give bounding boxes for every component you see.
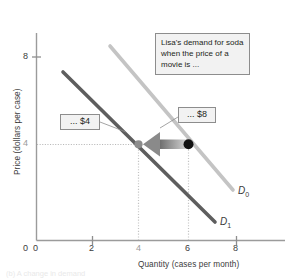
y-tick-label-4: 4 (23, 138, 28, 148)
callout-d1-price: ... $4 (60, 114, 100, 130)
shift-arrow (143, 132, 188, 157)
x-tick-label-6: 6 (185, 243, 190, 253)
x-tick-label-0: 0 (33, 243, 38, 253)
curve-label-d1: D1 (220, 216, 231, 229)
clipped-caption: (b) A change in demand (6, 269, 124, 278)
chart-canvas (0, 0, 295, 280)
x-axis-title: Quantity (cases per month) (138, 260, 239, 269)
curve-label-d0-sub: 0 (245, 191, 249, 198)
callout-main-note: Lisa's demand for soda when the price of… (155, 33, 250, 75)
x-tick-label-4: 4 (136, 243, 141, 253)
y-tick-label-8: 8 (23, 51, 28, 61)
chart-figure: Price (dollars per case) Quantity (cases… (0, 0, 295, 280)
x-tick-label-8: 8 (233, 243, 238, 253)
point-on-d0-marker (184, 139, 194, 149)
y-tick-label-0: 0 (23, 243, 28, 253)
curve-label-d1-sub: 1 (227, 222, 231, 229)
curve-label-d0: D0 (238, 185, 249, 198)
callout-d0-price: ... $8 (178, 107, 216, 123)
y-axis-title: Price (dollars per case) (13, 88, 22, 175)
x-tick-label-2: 2 (89, 243, 94, 253)
point-on-d1-marker (134, 140, 142, 148)
